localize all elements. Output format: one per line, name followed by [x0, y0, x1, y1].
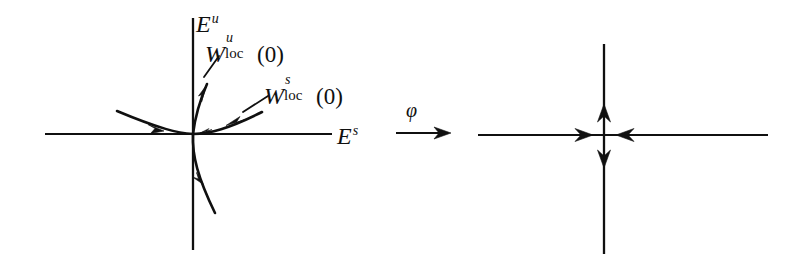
axis-label-unstable-subspace: Eu: [196, 12, 218, 36]
unstable-manifold-lower-branch: [193, 134, 215, 213]
stable-manifold-base: W: [264, 83, 284, 109]
stable-manifold-affix-stack: s loc: [284, 80, 306, 104]
axis-label-unstable-base: E: [196, 11, 211, 37]
stable-manifold-argument: (0): [316, 84, 343, 109]
unstable-manifold-affix-stack: u loc: [225, 38, 247, 62]
label-local-stable-manifold: W s loc (0): [264, 80, 343, 108]
figure-root: Eu Es W u loc (0) W s loc (0) φ: [0, 0, 806, 260]
axis-label-stable-subspace: Es: [337, 124, 357, 148]
stable-manifold-subscript: loc: [284, 88, 302, 103]
axis-label-unstable-superscript: u: [212, 11, 219, 26]
map-arrow-label: φ: [406, 100, 417, 120]
unstable-manifold-argument: (0): [257, 42, 284, 67]
right-panel-group: [478, 44, 768, 254]
axis-label-stable-superscript: s: [353, 123, 358, 138]
stable-manifold-superscript: s: [285, 73, 290, 87]
axis-label-stable-base: E: [337, 123, 352, 149]
unstable-manifold-base: W: [205, 41, 225, 67]
unstable-manifold-superscript: u: [226, 31, 233, 45]
map-arrow-group: [396, 127, 451, 139]
label-local-unstable-manifold: W u loc (0): [205, 38, 284, 66]
left-panel-group: [45, 18, 332, 250]
stable-manifold-right-branch: [193, 112, 262, 134]
unstable-manifold-subscript: loc: [225, 46, 243, 61]
figure-canvas: [0, 0, 806, 260]
